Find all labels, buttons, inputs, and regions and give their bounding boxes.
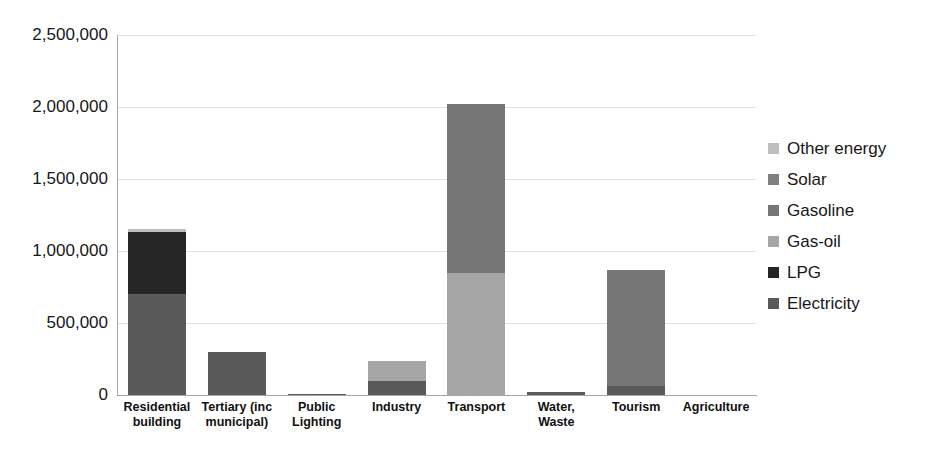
bar-stack: [368, 361, 426, 395]
bar-segment[interactable]: [368, 361, 426, 380]
x-axis-tick-label-line: Residential: [117, 400, 197, 415]
bar-segment[interactable]: [527, 392, 585, 395]
legend-label: Other energy: [787, 140, 886, 157]
bar-segment[interactable]: [607, 270, 665, 386]
y-axis-tick-label: 2,500,000: [0, 26, 108, 43]
legend-swatch-icon: [768, 298, 779, 309]
y-axis-tick-label: 1,000,000: [0, 242, 108, 259]
bar-stack: [527, 392, 585, 395]
x-axis-tick-label-line: Tertiary (inc: [197, 400, 277, 415]
bar-stack: [128, 229, 186, 395]
y-axis-tick-label: 2,000,000: [0, 98, 108, 115]
legend-swatch-icon: [768, 205, 779, 216]
y-axis-tick-label: 0: [0, 386, 108, 403]
legend-entry[interactable]: Other energy: [768, 133, 928, 164]
x-axis-tick-label: Tertiary (incmunicipal): [197, 400, 277, 430]
bars-layer: [117, 35, 756, 395]
legend-label: Electricity: [787, 295, 860, 312]
x-axis-tick-label: Water,Waste: [516, 400, 596, 430]
legend-entry[interactable]: Electricity: [768, 288, 928, 319]
bar-group[interactable]: [208, 35, 266, 395]
legend-label: LPG: [787, 264, 821, 281]
legend-swatch-icon: [768, 236, 779, 247]
legend-entry[interactable]: Gas-oil: [768, 226, 928, 257]
x-axis-tick-label-line: Waste: [516, 415, 596, 430]
x-axis-tick-label: Agriculture: [676, 400, 756, 415]
x-axis-tick-label-line: Industry: [357, 400, 437, 415]
bar-group[interactable]: [607, 35, 665, 395]
y-axis-tick-labels: 2,500,0002,000,0001,500,0001,000,000500,…: [0, 0, 108, 463]
legend-entry[interactable]: LPG: [768, 257, 928, 288]
x-axis-tick-label: Industry: [357, 400, 437, 415]
bar-segment[interactable]: [368, 381, 426, 395]
x-axis-category-labels: ResidentialbuildingTertiary (incmunicipa…: [117, 400, 756, 445]
bar-stack: [208, 352, 266, 395]
x-axis-tick-label-line: Water,: [516, 400, 596, 415]
stacked-bar-chart: 2,500,0002,000,0001,500,0001,000,000500,…: [0, 0, 929, 463]
x-axis-tick-label-line: Tourism: [596, 400, 676, 415]
bar-stack: [447, 104, 505, 395]
bar-segment[interactable]: [447, 104, 505, 273]
bar-segment[interactable]: [447, 273, 505, 395]
x-axis-tick-label-line: Lighting: [277, 415, 357, 430]
bar-group[interactable]: [687, 35, 745, 395]
y-axis-tick-label: 500,000: [0, 314, 108, 331]
legend-label: Gasoline: [787, 202, 854, 219]
bar-segment[interactable]: [208, 352, 266, 395]
y-axis-tick-label: 1,500,000: [0, 170, 108, 187]
bar-segment[interactable]: [128, 232, 186, 294]
x-axis-tick-label: Tourism: [596, 400, 676, 415]
bar-group[interactable]: [288, 35, 346, 395]
x-axis-tick-label: PublicLighting: [277, 400, 357, 430]
legend-swatch-icon: [768, 267, 779, 278]
x-axis-tick-label: Residentialbuilding: [117, 400, 197, 430]
x-axis-tick-label-line: municipal): [197, 415, 277, 430]
bar-segment[interactable]: [288, 394, 346, 395]
legend-entry[interactable]: Gasoline: [768, 195, 928, 226]
legend-swatch-icon: [768, 174, 779, 185]
x-axis-tick-label-line: Agriculture: [676, 400, 756, 415]
legend-label: Solar: [787, 171, 827, 188]
x-axis-tick-label: Transport: [437, 400, 517, 415]
x-axis-line: [117, 395, 757, 396]
x-axis-tick-label-line: Transport: [437, 400, 517, 415]
bar-group[interactable]: [128, 35, 186, 395]
legend-entry[interactable]: Solar: [768, 164, 928, 195]
legend-swatch-icon: [768, 143, 779, 154]
bar-stack: [288, 394, 346, 395]
bar-segment[interactable]: [607, 386, 665, 395]
x-axis-tick-label-line: building: [117, 415, 197, 430]
bar-group[interactable]: [368, 35, 426, 395]
x-axis-tick-label-line: Public: [277, 400, 357, 415]
bar-group[interactable]: [527, 35, 585, 395]
chart-legend: Other energySolarGasolineGas-oilLPGElect…: [768, 133, 928, 319]
bar-group[interactable]: [447, 35, 505, 395]
legend-label: Gas-oil: [787, 233, 841, 250]
bar-segment[interactable]: [128, 294, 186, 395]
bar-stack: [607, 270, 665, 395]
